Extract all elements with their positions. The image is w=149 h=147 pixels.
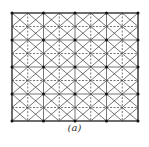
lattice-node — [74, 93, 77, 96]
lattice-node — [137, 93, 140, 96]
lattice-node — [11, 93, 14, 96]
lattice-node — [11, 39, 14, 42]
lattice-node — [105, 39, 108, 42]
lattice-node — [137, 39, 140, 42]
lattice-node — [74, 12, 77, 15]
figure-caption: (a) — [0, 122, 149, 133]
lattice-node — [11, 12, 14, 15]
lattice-node — [137, 66, 140, 69]
lattice-node — [42, 39, 45, 42]
lattice-node — [105, 12, 108, 15]
lattice-node — [137, 12, 140, 15]
lattice-node — [74, 66, 77, 69]
lattice-node — [42, 12, 45, 15]
lattice-node — [42, 93, 45, 96]
lattice-node — [105, 93, 108, 96]
lattice-node — [105, 66, 108, 69]
lattice-node — [11, 66, 14, 69]
lattice-node — [74, 39, 77, 42]
lattice-node — [42, 66, 45, 69]
